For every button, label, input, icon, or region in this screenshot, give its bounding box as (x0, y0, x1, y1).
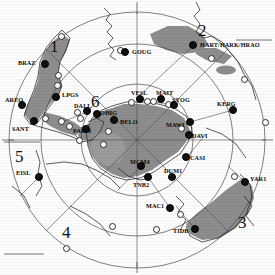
region-number-4: 4 (62, 224, 71, 241)
station-label-davi: DAVI (192, 133, 207, 139)
station-marker-tidb[interactable] (191, 225, 199, 233)
region-number-6: 6 (91, 93, 100, 110)
station-label-sant: SANT (12, 126, 29, 132)
region-number-5: 5 (15, 148, 24, 165)
region-number-1: 1 (50, 38, 59, 55)
station-label-hart-hark-hrao: HART/HARK/HRAO (200, 42, 260, 48)
station-label-vesl: VESL (131, 90, 148, 96)
station-marker-unlabeled[interactable] (42, 115, 49, 122)
station-marker-unlabeled[interactable] (150, 98, 157, 105)
station-marker-unlabeled[interactable] (58, 118, 65, 125)
station-label-tnb2: TNB2 (133, 182, 149, 188)
station-label-casi: CASI (190, 155, 205, 161)
station-marker-unlabeled[interactable] (109, 223, 116, 230)
station-marker-hart-hark-hrao[interactable] (189, 41, 197, 49)
station-marker-tnb2[interactable] (144, 173, 152, 181)
station-marker-unlabeled[interactable] (77, 115, 84, 122)
station-marker-unlabeled[interactable] (241, 76, 248, 83)
station-marker-mawi[interactable] (186, 118, 194, 126)
station-label-belo: BELO (120, 119, 138, 125)
station-label-lpgs: LPGS (62, 92, 79, 98)
station-marker-lpgs[interactable] (52, 93, 60, 101)
station-label-areq: AREQ (5, 97, 23, 103)
station-marker-unlabeled[interactable] (100, 141, 107, 148)
station-marker-unlabeled[interactable] (66, 123, 73, 130)
station-marker-unlabeled[interactable] (177, 211, 184, 218)
station-marker-mac1[interactable] (166, 204, 174, 212)
station-label-yar1: YAR1 (250, 176, 266, 182)
station-marker-yar1[interactable] (241, 178, 249, 186)
station-marker-unlabeled[interactable] (58, 33, 65, 40)
station-marker-unlabeled[interactable] (231, 173, 238, 180)
station-marker-casi[interactable] (182, 153, 190, 161)
station-marker-unlabeled[interactable] (262, 119, 269, 126)
station-marker-sant[interactable] (30, 117, 38, 125)
station-marker-goug[interactable] (121, 48, 129, 56)
station-label-mait: MAIT (156, 90, 173, 96)
station-label-braz: BRAZ (18, 60, 36, 66)
station-marker-unlabeled[interactable] (54, 82, 61, 89)
station-label-eisl: EISL (16, 170, 31, 176)
station-marker-unlabeled[interactable] (76, 137, 83, 144)
station-marker-unlabeled[interactable] (55, 72, 62, 79)
station-marker-unlabeled[interactable] (153, 226, 160, 233)
station-marker-unlabeled[interactable] (208, 55, 215, 62)
station-label-syog: SYOG (172, 97, 190, 103)
plate-region-2-c (216, 66, 236, 75)
fracture-zone-d (12, 186, 30, 208)
station-label-dall: DALL (74, 103, 92, 109)
station-label-ohig: OHIG (100, 110, 117, 116)
antarctic-station-map: BRAZAREQSANTLPGSEISLGOUGHART/HARK/HRAOKE… (0, 0, 275, 275)
station-label-goug: GOUG (132, 49, 151, 55)
station-label-mcm4: MCM4 (130, 159, 150, 165)
station-marker-braz[interactable] (41, 60, 49, 68)
station-label-palm: PALM (73, 128, 91, 134)
station-marker-unlabeled[interactable] (128, 99, 135, 106)
station-label-tidb: TIDB (173, 228, 189, 234)
station-label-mawi: MAWI (166, 122, 185, 128)
region-number-3: 3 (238, 214, 247, 231)
station-marker-eisl[interactable] (35, 173, 43, 181)
station-marker-unlabeled[interactable] (105, 128, 112, 135)
station-label-dum1: DUM1 (164, 168, 182, 174)
station-label-mac1: MAC1 (146, 203, 164, 209)
connector-kerg (190, 110, 233, 122)
region-number-2: 2 (198, 22, 207, 39)
station-marker-belo[interactable] (110, 116, 118, 124)
station-marker-unlabeled[interactable] (63, 245, 70, 252)
fracture-zone-a (206, 128, 246, 158)
station-label-kerg: KERG (217, 101, 236, 107)
fracture-zone-c (70, 206, 110, 236)
